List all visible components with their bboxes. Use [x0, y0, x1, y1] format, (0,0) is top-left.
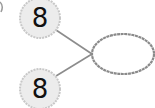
number-bond-diagram: 8 8: [0, 0, 155, 108]
whole-oval[interactable]: [92, 34, 154, 74]
connector-line-bottom: [56, 54, 92, 76]
part-circle-top: 8: [20, 0, 60, 38]
partial-edge-mark: [0, 2, 2, 12]
connector-line-top: [56, 30, 92, 54]
part-top-value: 8: [32, 3, 49, 33]
part-bottom-value: 8: [32, 74, 49, 104]
part-circle-bottom: 8: [20, 69, 60, 108]
